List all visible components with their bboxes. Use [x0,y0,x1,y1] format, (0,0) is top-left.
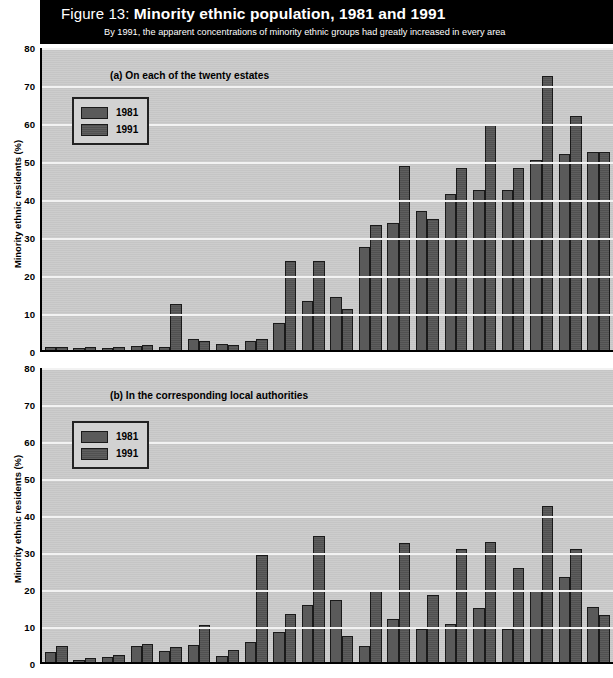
y-tick-label-30: 30 [0,233,38,244]
x-tick-10 [328,350,329,352]
figure-subtitle: By 1991, the apparent concentrations of … [104,27,505,37]
x-tick-15 [470,350,471,352]
bar-1981-6 [188,339,199,350]
bar-1991-1 [56,646,67,662]
x-tick-19 [584,662,585,664]
bar-1991-2 [85,347,96,350]
legend-label-1981: 1981 [116,107,138,118]
bar-1981-1 [45,652,56,662]
bar-1991-6 [199,341,210,350]
gridline-80 [42,368,613,370]
bar-1981-5 [159,347,170,350]
bar-1991-3 [113,655,124,662]
legend-item-1981-a: 1981 [81,104,138,121]
gridline-40 [42,516,613,518]
legend-a: 1981 1991 [72,97,149,145]
x-tick-12 [385,350,386,352]
bar-1981-9 [273,323,284,350]
legend-swatch-1981-icon [81,107,108,119]
bar-1981-2 [73,660,84,662]
bar-1991-20 [599,615,610,662]
bar-1991-20 [599,152,610,350]
bar-1981-8 [245,341,256,350]
bar-1981-5 [159,651,170,662]
x-tick-2 [99,350,100,352]
x-tick-3 [128,350,129,352]
figure-title: Figure 13: Minority ethnic population, 1… [61,5,445,23]
bar-1991-4 [142,345,153,350]
bar-1981-4 [131,646,142,662]
plot-area-a [40,48,613,352]
panel-label-a: (a) On each of the twenty estates [110,70,269,81]
x-tick-1 [71,662,72,664]
bar-1991-19 [570,549,581,662]
figure-page: Figure 13: Minority ethnic population, 1… [0,0,613,678]
y-tick-label-0: 0 [0,659,38,670]
legend-label-1991: 1991 [116,124,138,135]
legend-item-1991-a: 1991 [81,121,138,138]
x-tick-19 [584,350,585,352]
gridline-50 [42,162,613,164]
figure-title-text: Minority ethnic population, 1981 and 199… [134,5,446,22]
x-tick-10 [328,662,329,664]
bar-1981-3 [102,348,113,350]
bar-1981-16 [473,608,484,662]
x-tick-2 [99,662,100,664]
y-tick-label-60: 60 [0,119,38,130]
bar-1981-20 [587,152,598,350]
gridline-20 [42,276,613,278]
bar-1991-17 [513,168,524,350]
chart-panel-a: Minority ethnic residents (%) 8070605040… [0,44,613,364]
bar-1981-19 [559,154,570,350]
bar-1991-11 [342,636,353,662]
y-tick-label-80: 80 [0,43,38,54]
legend-item-1981-b: 1981 [81,428,138,445]
bar-1991-4 [142,644,153,663]
y-tick-label-70: 70 [0,400,38,411]
x-tick-17 [527,350,528,352]
x-tick-8 [270,662,271,664]
bar-group-a [42,48,613,350]
chart-panel-b: Minority ethnic residents (%) 8070605040… [0,364,613,678]
bar-1991-18 [542,506,553,662]
gridline-10 [42,314,613,316]
legend-label-1991: 1991 [116,448,138,459]
bar-1991-3 [113,347,124,350]
bar-1981-3 [102,657,113,662]
x-tick-17 [527,662,528,664]
x-tick-16 [499,662,500,664]
bar-1981-15 [445,624,456,662]
bar-1981-12 [359,646,370,662]
figure-title-bar: Figure 13: Minority ethnic population, 1… [40,0,613,44]
bar-1991-10 [313,536,324,662]
x-tick-5 [185,662,186,664]
bar-1981-11 [330,600,341,662]
y-tick-label-30: 30 [0,548,38,559]
x-tick-14 [442,662,443,664]
bar-1991-5 [170,647,181,662]
gridline-70 [42,86,613,88]
bar-1991-7 [228,650,239,662]
x-tick-1 [71,350,72,352]
x-tick-7 [242,350,243,352]
panel-label-b: (b) In the corresponding local authoriti… [110,390,308,401]
gridline-10 [42,627,613,629]
bar-1991-16 [485,542,496,662]
bar-1991-18 [542,76,553,350]
x-tick-4 [156,662,157,664]
bar-1991-6 [199,625,210,662]
x-tick-7 [242,662,243,664]
plot-area-b [40,368,613,664]
legend-item-1991-b: 1991 [81,445,138,462]
bar-1991-13 [399,166,410,350]
x-tick-3 [128,662,129,664]
bar-1991-9 [285,614,296,662]
x-tick-11 [356,662,357,664]
bar-1981-13 [387,619,398,662]
y-tick-label-20: 20 [0,585,38,596]
bar-1981-10 [302,301,313,350]
bar-1981-18 [530,160,541,350]
bar-1981-1 [45,347,56,350]
bar-1991-12 [370,225,381,350]
bar-1981-15 [445,194,456,350]
